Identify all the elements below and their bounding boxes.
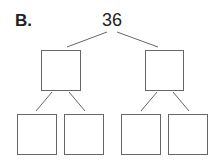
connector-line: [67, 32, 107, 47]
factor-box-level1-left[interactable]: [42, 51, 81, 91]
connector-line: [36, 92, 52, 111]
factor-tree-diagram: [0, 0, 215, 165]
factor-box-level2-3[interactable]: [122, 115, 161, 155]
factor-box-level2-2[interactable]: [65, 115, 104, 155]
connector-line: [117, 32, 158, 47]
factor-box-level2-4[interactable]: [169, 115, 208, 155]
connector-line: [69, 92, 85, 111]
factor-box-level2-1[interactable]: [18, 115, 57, 155]
connector-line: [173, 92, 189, 111]
factor-box-level1-right[interactable]: [146, 51, 184, 91]
connector-line: [141, 92, 157, 111]
